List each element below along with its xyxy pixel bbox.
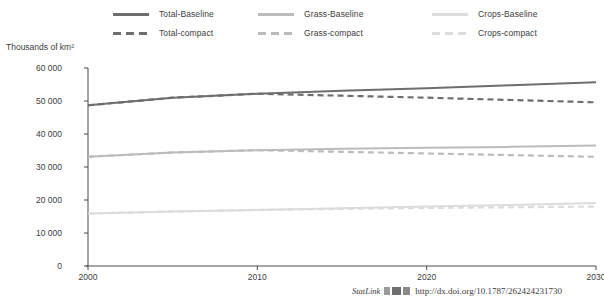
x-tick-label: 2000 (79, 272, 98, 282)
x-tick-label: 2030 (587, 272, 604, 282)
y-axis-tick-labels: 010 00020 00030 00040 00050 00060 000 (10, 0, 62, 301)
y-tick-label: 30 000 (12, 162, 62, 172)
y-tick-label: 0 (12, 261, 62, 271)
y-tick-label: 50 000 (12, 96, 62, 106)
y-tick-label: 60 000 (12, 63, 62, 73)
y-tick-label: 10 000 (12, 228, 62, 238)
statlink-footer: StatLink http://dx.doi.org/10.1787/26242… (352, 286, 562, 296)
x-tick-label: 2020 (417, 272, 436, 282)
chart-svg (0, 0, 604, 301)
y-tick-label: 20 000 (12, 195, 62, 205)
x-tick-label: 2010 (248, 272, 267, 282)
chart-figure: Total-BaselineTotal-compactGrass-Baselin… (0, 0, 604, 301)
series-line-total-baseline (88, 82, 596, 105)
y-tick-label: 40 000 (12, 129, 62, 139)
series-line-total-compact (88, 94, 596, 106)
chart-plot-area: Thousands of km² 010 00020 00030 00040 0… (0, 0, 604, 301)
statlink-barcode-icon (384, 287, 410, 295)
statlink-url[interactable]: http://dx.doi.org/10.1787/262424231730 (415, 286, 562, 296)
statlink-label: StatLink (352, 286, 380, 296)
